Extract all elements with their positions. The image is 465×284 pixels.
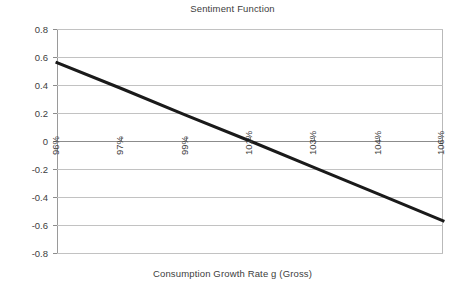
y-tick-label: -0.4: [0, 192, 48, 203]
x-tick-label: 104%: [372, 131, 383, 155]
y-tick-mark: [53, 85, 57, 86]
y-tick-mark: [53, 113, 57, 114]
y-tick-label: -0.2: [0, 164, 48, 175]
x-tick-label: 106%: [435, 131, 446, 155]
y-tick-label: 0.8: [0, 24, 48, 35]
y-tick-mark: [53, 29, 57, 30]
x-tick-label: 97%: [114, 136, 125, 155]
y-tick-label: 0: [0, 136, 48, 147]
y-tick-mark: [53, 169, 57, 170]
x-tick-label: 99%: [179, 136, 190, 155]
y-tick-label: -0.6: [0, 220, 48, 231]
y-tick-mark: [53, 225, 57, 226]
y-tick-mark: [53, 57, 57, 58]
y-tick-mark: [53, 197, 57, 198]
gridline: [57, 253, 443, 254]
y-tick-label: 0.2: [0, 108, 48, 119]
chart-container: Sentiment Function 0.80.60.40.20-0.2-0.4…: [0, 0, 465, 284]
y-tick-label: -0.8: [0, 248, 48, 259]
y-tick-label: 0.6: [0, 52, 48, 63]
y-tick-mark: [53, 253, 57, 254]
x-axis-title: Consumption Growth Rate g (Gross): [0, 268, 465, 279]
x-tick-label: 103%: [307, 131, 318, 155]
y-tick-label: 0.4: [0, 80, 48, 91]
chart-title: Sentiment Function: [0, 3, 465, 14]
x-tick-label: 101%: [243, 131, 254, 155]
x-tick-label: 96%: [50, 136, 61, 155]
